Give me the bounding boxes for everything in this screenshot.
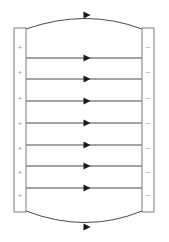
negative-charge-symbol-3: – (145, 93, 150, 103)
top-fringe-line (26, 19, 142, 30)
bottom-fringe-line-arrowhead (83, 223, 90, 230)
negative-charge-symbol-5: – (145, 143, 150, 153)
bottom-fringe-line (26, 211, 142, 223)
positive-charge-symbol-2: + (18, 68, 23, 77)
positive-charge-symbol-5: + (18, 144, 23, 153)
negative-charge-symbol-4: – (145, 118, 150, 128)
positive-charge-symbol-7: + (18, 191, 23, 200)
field-arrowhead-6 (84, 163, 91, 170)
negative-charge-symbol-2: – (145, 67, 150, 77)
field-arrowhead-3 (84, 98, 91, 105)
negative-charge-symbol-6: – (145, 167, 150, 177)
field-arrowhead-2 (84, 76, 91, 83)
field-arrowhead-4 (84, 120, 91, 127)
positive-charge-symbol-6: + (18, 168, 23, 177)
negative-charge-symbol-7: – (145, 190, 150, 200)
top-fringe-line-arrowhead (83, 11, 90, 18)
field-diagram-svg: +++++++––––––– (0, 0, 169, 242)
field-arrowhead-5 (84, 142, 91, 149)
capacitor-field-diagram: +++++++––––––– (0, 0, 169, 242)
positive-charge-symbol-4: + (18, 119, 23, 128)
field-arrowhead-1 (84, 55, 91, 62)
positive-charge-symbol-1: + (18, 43, 23, 52)
positive-charge-symbol-3: + (18, 94, 23, 103)
negative-charge-symbol-1: – (145, 42, 150, 52)
arrowheads-group (83, 11, 90, 230)
field-arrowhead-7 (84, 185, 91, 192)
